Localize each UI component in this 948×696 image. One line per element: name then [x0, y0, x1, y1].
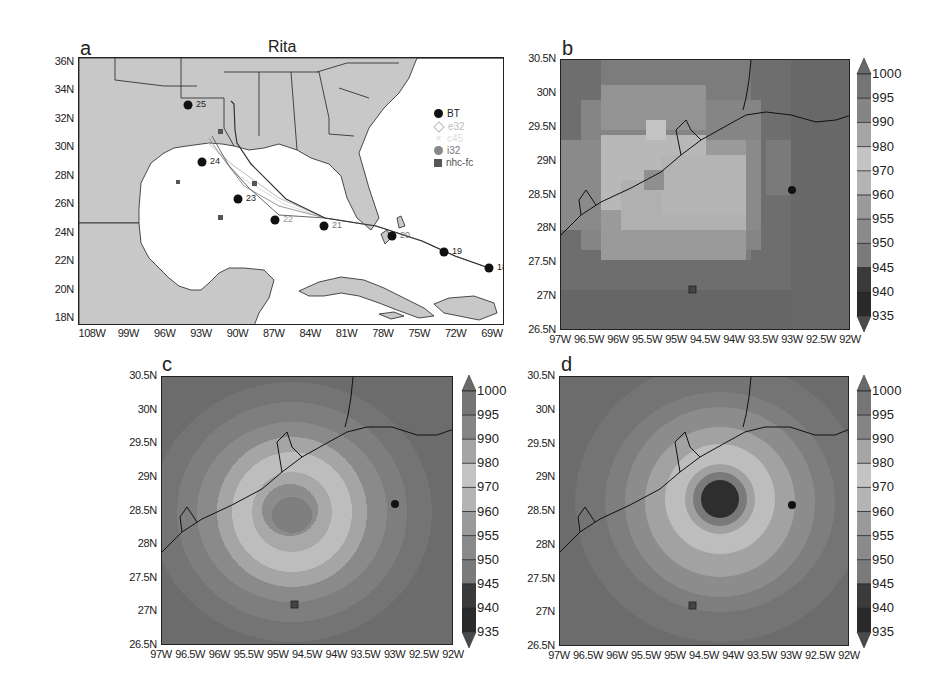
- x-tick-label: 99W: [108, 327, 148, 339]
- legend-label: BT: [447, 108, 460, 119]
- diamond-marker-icon: [433, 121, 444, 132]
- pressure-map-b: [560, 59, 850, 330]
- colorbar-tick-label: 990: [872, 431, 894, 446]
- bt-label: 23: [246, 193, 256, 203]
- filled-circle-marker-icon: [434, 109, 443, 118]
- colorbar-tick-label: 950: [872, 552, 894, 567]
- pressure-map-c: [161, 376, 453, 645]
- bt-label: 21: [332, 220, 342, 230]
- legend-label: nhc-fc: [446, 157, 473, 168]
- pressure-field-b: [561, 60, 850, 330]
- colorbar-tick-label: 1000: [872, 383, 902, 398]
- panel-label-d: d: [561, 354, 572, 374]
- y-tick-label: 30.5N: [515, 369, 555, 381]
- x-tick-label: 72W: [436, 327, 476, 339]
- legend-label: i32: [447, 145, 460, 156]
- y-tick-label: 29.5N: [117, 436, 157, 448]
- legend-label: c45: [447, 133, 463, 144]
- y-tick-label: 29.5N: [516, 120, 556, 132]
- colorbar-tick-label: 955: [872, 528, 894, 543]
- y-tick-label: 30N: [117, 403, 157, 415]
- pressure-field-c: [162, 377, 453, 645]
- colorbar-tick-label: 950: [872, 235, 894, 250]
- colorbar-tick-label: 990: [477, 431, 499, 446]
- legend-item-c45: × c45: [434, 133, 463, 144]
- colorbar-tick-label: 980: [477, 455, 499, 470]
- pressure-field-d: [560, 377, 849, 646]
- y-tick-label: 36N: [34, 55, 74, 67]
- colorbar-bar: [856, 375, 872, 648]
- y-tick-label: 30N: [516, 86, 556, 98]
- colorbar-tick-label: 945: [477, 576, 499, 591]
- filled-circle-marker-icon: [434, 146, 443, 155]
- x-tick-label: 93W: [181, 327, 221, 339]
- x-tick-label: 92W: [830, 333, 870, 345]
- x-tick-label: 90W: [217, 327, 257, 339]
- x-tick-label: 87W: [254, 327, 294, 339]
- colorbar-tick-label: 955: [477, 528, 499, 543]
- y-tick-label: 29N: [516, 154, 556, 166]
- colorbar-tick-label: 950: [477, 552, 499, 567]
- legend-item-bt: BT: [434, 108, 460, 119]
- x-tick-label: 69W: [472, 327, 512, 339]
- panel-label-a: a: [80, 38, 91, 58]
- y-tick-label: 28.5N: [516, 188, 556, 200]
- panel-label-c: c: [162, 354, 172, 374]
- legend-item-e32: e32: [434, 121, 465, 132]
- colorbar-tick-label: 980: [872, 455, 894, 470]
- colorbar-tick-label: 935: [477, 624, 499, 639]
- colorbar-tick-label: 960: [872, 187, 894, 202]
- filled-square-marker-icon: [434, 159, 442, 167]
- colorbar-tick-label: 1000: [477, 383, 507, 398]
- colorbar-tick-label: 995: [477, 407, 499, 422]
- y-tick-label: 30N: [34, 140, 74, 152]
- y-tick-label: 28.5N: [515, 504, 555, 516]
- y-tick-label: 27.5N: [515, 572, 555, 584]
- colorbar-tick-label: 940: [872, 284, 894, 299]
- gulf-map: [79, 58, 504, 325]
- y-tick-label: 29N: [515, 470, 555, 482]
- colorbar-tick-label: 1000: [872, 66, 902, 81]
- colorbar-tick-label: 970: [477, 479, 499, 494]
- x-tick-label: 92W: [829, 649, 869, 661]
- colorbar-tick-label: 995: [872, 90, 894, 105]
- colorbar-tick-label: 945: [872, 260, 894, 275]
- colorbar-tick-label: 960: [872, 504, 894, 519]
- y-tick-label: 29.5N: [515, 437, 555, 449]
- legend-item-i32: i32: [434, 145, 460, 156]
- x-tick-label: 81W: [327, 327, 367, 339]
- bt-label: 20: [400, 230, 410, 240]
- y-tick-label: 28.5N: [117, 504, 157, 516]
- y-tick-label: 32N: [34, 112, 74, 124]
- legend-item-nhc-fc: nhc-fc: [434, 157, 473, 168]
- colorbar-tick-label: 955: [872, 211, 894, 226]
- bt-label: 19: [452, 246, 462, 256]
- x-tick-label: 92W: [433, 648, 473, 660]
- colorbar-tick-label: 940: [477, 600, 499, 615]
- colorbar-bar: [856, 58, 872, 332]
- y-tick-label: 27N: [117, 604, 157, 616]
- y-tick-label: 18N: [34, 311, 74, 323]
- y-tick-label: 27.5N: [516, 255, 556, 267]
- y-tick-label: 28N: [34, 169, 74, 181]
- y-tick-label: 27.5N: [117, 571, 157, 583]
- colorbar-tick-label: 980: [872, 139, 894, 154]
- y-tick-label: 22N: [34, 254, 74, 266]
- bt-label: 22: [283, 214, 293, 224]
- colorbar-tick-label: 935: [872, 624, 894, 639]
- y-tick-label: 30N: [515, 403, 555, 415]
- panel-title-a: Rita: [268, 38, 296, 56]
- y-tick-label: 30.5N: [516, 52, 556, 64]
- x-tick-label: 75W: [399, 327, 439, 339]
- bt-label: 24: [210, 156, 220, 166]
- y-tick-label: 27N: [515, 605, 555, 617]
- x-tick-label: 96W: [145, 327, 185, 339]
- pressure-map-d: [559, 376, 849, 646]
- x-tick-label: 108W: [72, 327, 112, 339]
- y-tick-label: 24N: [34, 226, 74, 238]
- cross-marker-icon: ×: [434, 133, 443, 144]
- x-tick-label: 78W: [363, 327, 403, 339]
- colorbar-tick-label: 960: [477, 504, 499, 519]
- x-tick-label: 84W: [290, 327, 330, 339]
- bt-label: 25: [196, 99, 206, 109]
